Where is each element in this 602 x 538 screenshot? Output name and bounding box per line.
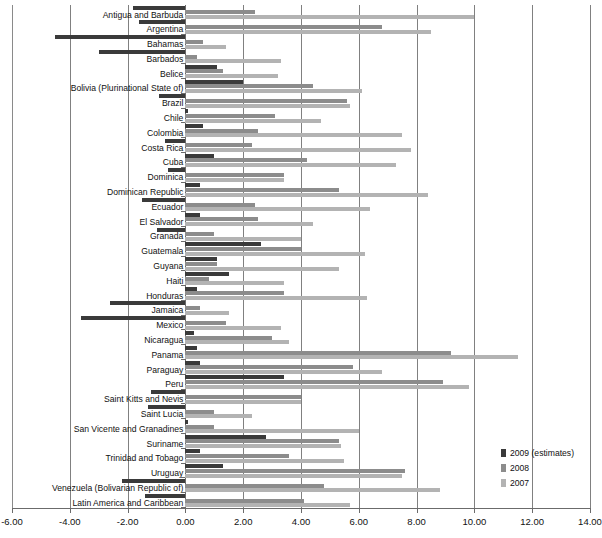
category-tick (181, 182, 185, 183)
category-tick (181, 167, 185, 168)
x-tick-label: 0.00 (176, 516, 195, 527)
legend-label-2008: 2008 (510, 461, 529, 476)
x-tick-label: 8.00 (407, 516, 426, 527)
x-tick (243, 508, 244, 513)
x-tick (359, 508, 360, 513)
category-label: San Vicente and Granadines (12, 425, 183, 434)
category-label: Suriname (12, 440, 183, 449)
category-tick (181, 389, 185, 390)
category-tick (181, 477, 185, 478)
category-tick (181, 122, 185, 123)
category-tick (181, 463, 185, 464)
category-label: Trinidad and Tobago (12, 454, 183, 463)
category-tick (181, 196, 185, 197)
category-tick (181, 285, 185, 286)
plot-area: Antigua and BarbudaArgentinaBahamasBarba… (12, 5, 590, 508)
x-tick-label: -6.00 (1, 516, 23, 527)
category-tick (181, 448, 185, 449)
x-tick (301, 508, 302, 513)
category-tick (181, 418, 185, 419)
category-tick (181, 329, 185, 330)
category-label: Venezuela (Bolivarian Republic of) (12, 484, 183, 493)
category-label: Panama (12, 351, 183, 360)
x-tick-label: 6.00 (350, 516, 369, 527)
category-label: Bolivia (Plurinational State of) (12, 84, 183, 93)
legend-swatch-2007 (501, 479, 506, 487)
x-tick-label: -4.00 (59, 516, 81, 527)
category-tick (181, 137, 185, 138)
x-tick-label: 14.00 (578, 516, 602, 527)
x-tick-label: 12.00 (520, 516, 544, 527)
x-tick-label: 2.00 (234, 516, 253, 527)
category-tick (181, 19, 185, 20)
x-tick (532, 508, 533, 513)
category-label: Guyana (12, 262, 183, 271)
category-label: Nicaragua (12, 336, 183, 345)
category-tick (181, 344, 185, 345)
x-tick (70, 508, 71, 513)
category-label: Antigua and Barbuda (12, 11, 183, 20)
category-tick (181, 226, 185, 227)
x-tick (590, 508, 591, 513)
category-label: Argentina (12, 25, 183, 34)
x-tick-label: 4.00 (292, 516, 311, 527)
x-tick (474, 508, 475, 513)
category-label: Jamaica (12, 306, 183, 315)
category-tick (181, 256, 185, 257)
x-tick (417, 508, 418, 513)
category-label: Dominica (12, 173, 183, 182)
category-tick (181, 108, 185, 109)
x-tick (128, 508, 129, 513)
category-label: Cuba (12, 158, 183, 167)
category-label: Barbados (12, 55, 183, 64)
category-label: Latin America and Caribbean (12, 499, 183, 508)
category-label: Mexico (12, 321, 183, 330)
category-tick (181, 93, 185, 94)
x-tick-label: 10.00 (463, 516, 487, 527)
category-tick (181, 211, 185, 212)
category-label: Costa Rica (12, 144, 183, 153)
category-label: Brazil (12, 99, 183, 108)
category-label: Saint Kitts and Nevis (12, 395, 183, 404)
category-labels: Antigua and BarbudaArgentinaBahamasBarba… (12, 5, 590, 508)
category-label: Dominican Republic (12, 188, 183, 197)
category-tick (181, 300, 185, 301)
legend-label-2009: 2009 (estimates) (510, 446, 574, 461)
category-tick (181, 359, 185, 360)
legend-swatch-2009 (501, 449, 506, 457)
category-label: Honduras (12, 292, 183, 301)
category-label: Uruguay (12, 469, 183, 478)
x-tick (185, 508, 186, 513)
category-label: Ecuador (12, 203, 183, 212)
legend-label-2007: 2007 (510, 476, 529, 491)
category-tick (181, 433, 185, 434)
legend-item-2009[interactable]: 2009 (estimates) (501, 446, 574, 461)
category-label: Haiti (12, 277, 183, 286)
legend: 2009 (estimates) 2008 2007 (501, 446, 574, 491)
x-tick-label: -2.00 (117, 516, 139, 527)
category-label: Granada (12, 232, 183, 241)
category-tick (181, 403, 185, 404)
category-tick (181, 34, 185, 35)
legend-item-2007[interactable]: 2007 (501, 476, 574, 491)
bar-chart: Antigua and BarbudaArgentinaBahamasBarba… (0, 0, 602, 538)
category-label: Belice (12, 70, 183, 79)
category-label: Peru (12, 380, 183, 389)
legend-item-2008[interactable]: 2008 (501, 461, 574, 476)
category-label: Saint Lucia (12, 410, 183, 419)
category-label: Chile (12, 114, 183, 123)
category-tick (181, 270, 185, 271)
category-tick (181, 78, 185, 79)
category-tick (181, 241, 185, 242)
category-label: Guatemala (12, 247, 183, 256)
category-tick (181, 315, 185, 316)
category-label: Bahamas (12, 40, 183, 49)
legend-swatch-2008 (501, 464, 506, 472)
category-label: Colombia (12, 129, 183, 138)
category-tick (181, 63, 185, 64)
category-label: El Salvador (12, 218, 183, 227)
category-tick (181, 152, 185, 153)
x-tick (12, 508, 13, 513)
category-tick (181, 374, 185, 375)
category-tick (181, 492, 185, 493)
